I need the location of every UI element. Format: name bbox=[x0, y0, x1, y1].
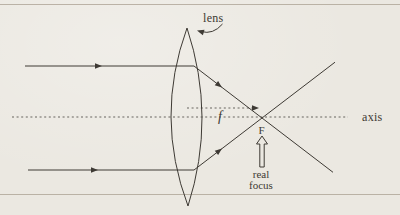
diagram-canvas: axis f lens F real focus bbox=[0, 0, 400, 215]
real-focus-pointer-icon bbox=[257, 136, 268, 167]
bottom-refracted-arrowhead-icon bbox=[215, 146, 224, 155]
real-focus-label-line2: focus bbox=[249, 179, 273, 191]
lens-ray-diagram: axis f lens F real focus bbox=[0, 0, 400, 215]
lens-callout-curve bbox=[201, 24, 223, 32]
lens-callout-arrowhead-icon bbox=[196, 28, 204, 35]
axis-label: axis bbox=[362, 110, 383, 124]
focus-point-label: F bbox=[259, 124, 265, 136]
lens-label: lens bbox=[203, 11, 224, 25]
lens-right-surface bbox=[187, 28, 202, 206]
focal-length-arrowhead-icon bbox=[252, 105, 259, 111]
bottom-ray-arrowhead-icon bbox=[91, 167, 98, 173]
top-ray-arrowhead-icon bbox=[95, 63, 102, 69]
top-refracted-arrowhead-icon bbox=[215, 81, 224, 90]
focal-length-label: f bbox=[218, 109, 224, 124]
